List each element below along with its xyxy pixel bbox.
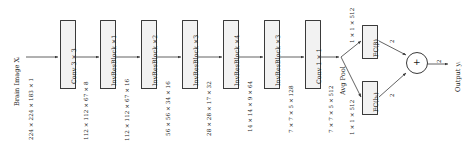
block-invresblock-3-out-dims: 28 × 28 × 17 × 32 bbox=[207, 81, 213, 136]
fc-beta-in-dims: 1 × 1 × 512 bbox=[350, 8, 356, 43]
block-invresblock-1-out-dims: 112 × 112 × 67 × 16 bbox=[125, 79, 131, 141]
network-architecture-diagram: Brain Image Xᵢ 224 × 224 × 183 × 1 Conv … bbox=[0, 0, 473, 146]
block-conv-3x3-out-dims: 112 × 112 × 67 × 8 bbox=[84, 81, 90, 140]
block-invresblock-2-label: InvResBlock ×2 bbox=[152, 35, 158, 86]
sum-operator-glyph: + bbox=[413, 58, 421, 67]
block-conv-1x1-label: Conv 1 × 1 bbox=[316, 48, 322, 84]
block-invresblock-5-label: InvResBlock ×3 bbox=[275, 35, 281, 86]
fc-bi-label: FC(bᵢ) bbox=[373, 92, 379, 112]
input-label: Brain Image Xᵢ bbox=[14, 57, 21, 106]
avg-pool-label: Avg Pool bbox=[340, 66, 347, 95]
fc-beta-label: FC(β) bbox=[373, 39, 379, 57]
block-conv-3x3-label: Conv 3 × 3 bbox=[71, 48, 77, 84]
block-invresblock-1-label: InvResBlock ×1 bbox=[111, 35, 117, 86]
fc-beta-out-dims: 2 bbox=[390, 39, 396, 43]
block-invresblock-3-label: InvResBlock ×3 bbox=[193, 35, 199, 86]
fc-bi-out-dims: 2 bbox=[390, 93, 396, 97]
sum-out-dims: 2 bbox=[437, 59, 443, 63]
output-label: Output yᵢ bbox=[455, 61, 462, 92]
block-conv-1x1-out-dims: 7 × 7 × 5 × 512 bbox=[329, 85, 335, 133]
block-invresblock-4-label: InvResBlock ×4 bbox=[234, 35, 240, 86]
input-dims: 224 × 224 × 183 × 1 bbox=[29, 78, 35, 140]
block-invresblock-2-out-dims: 56 × 56 × 34 × 16 bbox=[166, 81, 172, 136]
fc-bi-in-dims: 1 × 1 × 512 bbox=[350, 100, 356, 135]
block-invresblock-5-out-dims: 7 × 7 × 5 × 128 bbox=[289, 85, 295, 133]
block-invresblock-4-out-dims: 14 × 14 × 9 × 64 bbox=[248, 81, 254, 132]
